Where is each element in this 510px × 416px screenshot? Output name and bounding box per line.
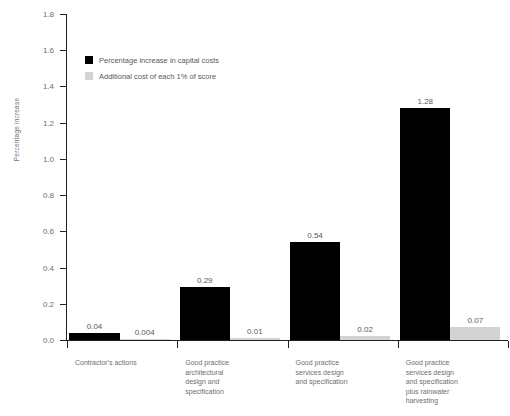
- y-axis-tick-label: 1.8: [14, 10, 54, 19]
- y-axis-tick-label: 0.6: [14, 227, 54, 236]
- x-axis-tick: [288, 341, 289, 348]
- x-axis-tick: [398, 341, 399, 348]
- x-axis-tick: [177, 341, 178, 348]
- bar[interactable]: [450, 327, 500, 340]
- y-axis-tick: [60, 14, 66, 15]
- y-axis-tick-label: 1.0: [14, 154, 54, 163]
- bar-group: 0.040.004: [67, 14, 177, 340]
- bar-group: 0.540.02: [288, 14, 398, 340]
- bar[interactable]: [290, 242, 340, 340]
- bar-group: 1.280.07: [398, 14, 508, 340]
- y-axis-tick-label: 0.8: [14, 191, 54, 200]
- bar-chart: Percentage increase 0.00.20.40.60.81.01.…: [0, 0, 510, 416]
- y-axis-tick-label: 0.2: [14, 299, 54, 308]
- y-axis-tick-label: 1.6: [14, 46, 54, 55]
- y-axis-tick: [60, 268, 66, 269]
- bar-group: 0.290.01: [177, 14, 287, 340]
- bar[interactable]: [400, 108, 450, 340]
- y-axis-tick: [60, 50, 66, 51]
- y-axis-tick-label: 1.2: [14, 118, 54, 127]
- bar-value-label: 1.28: [395, 97, 455, 106]
- y-axis-tick: [60, 195, 66, 196]
- bar[interactable]: [230, 338, 280, 340]
- bar[interactable]: [340, 336, 390, 340]
- y-axis-tick: [60, 86, 66, 87]
- x-axis-category-label: Good practicearchitecturaldesign andspec…: [185, 358, 285, 396]
- y-axis-tick: [60, 340, 66, 341]
- bar-value-label: 0.07: [445, 316, 505, 325]
- bar[interactable]: [120, 339, 170, 340]
- x-axis-tick: [67, 341, 68, 348]
- y-axis-tick-label: 1.4: [14, 82, 54, 91]
- y-axis-tick-label: 0.0: [14, 336, 54, 345]
- x-axis-category-label: Contractor's actions: [75, 358, 175, 368]
- bar-value-label: 0.29: [175, 276, 235, 285]
- x-axis-category-label: Good practiceservices designand specific…: [406, 358, 506, 406]
- x-axis-tick: [508, 341, 509, 348]
- y-axis-tick: [60, 304, 66, 305]
- y-axis-tick-label: 0.4: [14, 263, 54, 272]
- y-axis-tick: [60, 123, 66, 124]
- bar[interactable]: [180, 287, 230, 340]
- bar-value-label: 0.004: [115, 328, 175, 337]
- bar-value-label: 0.02: [335, 325, 395, 334]
- bar-value-label: 0.01: [225, 327, 285, 336]
- bar[interactable]: [69, 333, 119, 340]
- plot-area: 0.040.0040.290.010.540.021.280.07: [67, 14, 508, 340]
- y-axis-tick: [60, 159, 66, 160]
- x-axis-category-label: Good practiceservices designand specific…: [296, 358, 396, 387]
- y-axis-tick: [60, 231, 66, 232]
- bar-value-label: 0.54: [285, 231, 345, 240]
